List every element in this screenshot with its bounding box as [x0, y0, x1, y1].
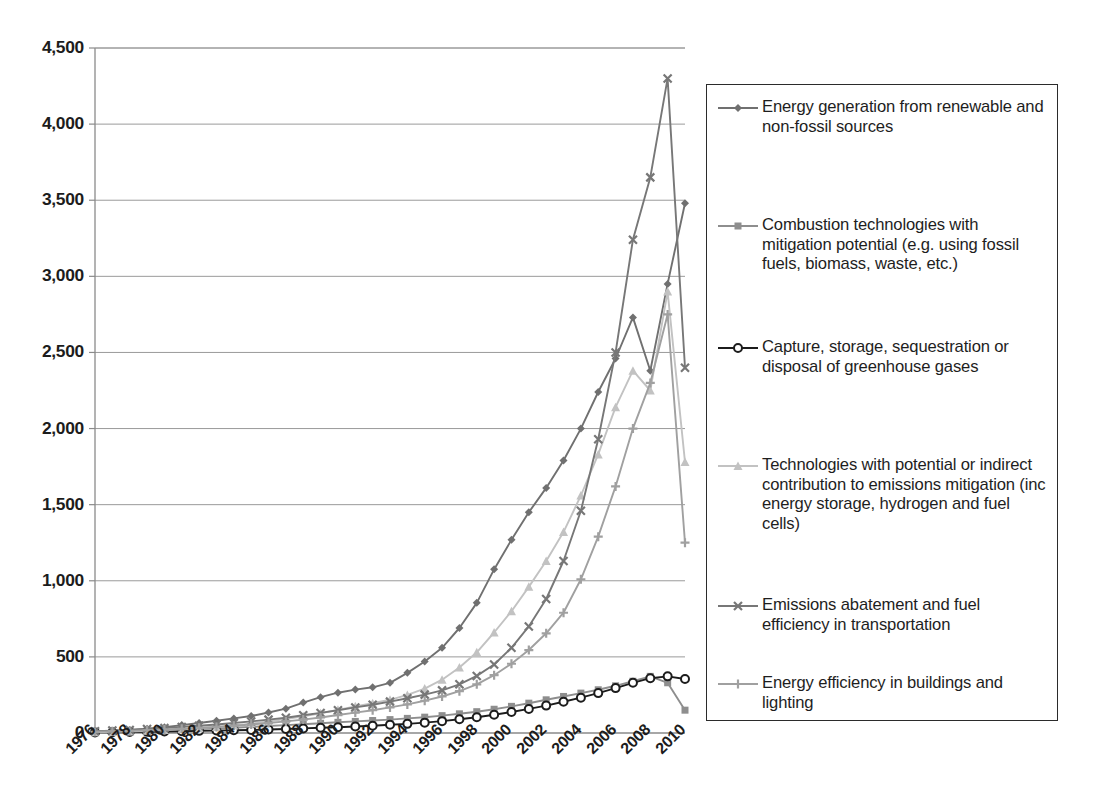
series-0 — [91, 199, 689, 735]
line-chart-figure: 05001,0001,5002,0002,5003,0003,5004,0004… — [0, 0, 1105, 804]
series-layer — [91, 74, 690, 736]
chart-legend: Energy generation from renewable and non… — [706, 84, 1058, 721]
cross-marker-icon — [717, 597, 759, 615]
axis-lines — [89, 48, 685, 733]
gridlines — [95, 48, 685, 657]
legend-item-5[interactable]: Energy efficiency in buildings and light… — [717, 673, 1049, 712]
y-tick-label: 2,500 — [8, 341, 84, 362]
legend-item-label: Capture, storage, sequestration or dispo… — [762, 337, 1049, 376]
legend-item-1[interactable]: Combustion technologies with mitigation … — [717, 215, 1049, 274]
y-tick-label: 1,500 — [8, 494, 84, 515]
diamond-marker-icon — [717, 99, 759, 117]
legend-item-label: Technologies with potential or indirect … — [762, 455, 1049, 533]
legend-item-label: Combustion technologies with mitigation … — [762, 215, 1049, 274]
legend-item-0[interactable]: Energy generation from renewable and non… — [717, 97, 1049, 136]
y-tick-label: 500 — [8, 646, 84, 667]
square-marker-icon — [717, 217, 759, 235]
legend-item-label: Energy generation from renewable and non… — [762, 97, 1049, 136]
series-3 — [91, 287, 690, 736]
y-tick-label: 4,500 — [8, 37, 84, 58]
legend-item-4[interactable]: Emissions abatement and fuel efficiency … — [717, 595, 1049, 634]
series-4 — [91, 74, 689, 735]
legend-item-label: Energy efficiency in buildings and light… — [762, 673, 1049, 712]
y-tick-label: 1,000 — [8, 570, 84, 591]
legend-item-label: Emissions abatement and fuel efficiency … — [762, 595, 1049, 634]
legend-item-3[interactable]: Technologies with potential or indirect … — [717, 455, 1049, 533]
y-tick-label: 3,000 — [8, 265, 84, 286]
y-tick-label: 2,000 — [8, 418, 84, 439]
y-tick-label: 4,000 — [8, 113, 84, 134]
plus-marker-icon — [717, 675, 759, 693]
series-5 — [91, 310, 690, 736]
y-tick-label: 3,500 — [8, 189, 84, 210]
circle-marker-icon — [717, 339, 759, 357]
legend-item-2[interactable]: Capture, storage, sequestration or dispo… — [717, 337, 1049, 376]
triangle-marker-icon — [717, 457, 759, 475]
